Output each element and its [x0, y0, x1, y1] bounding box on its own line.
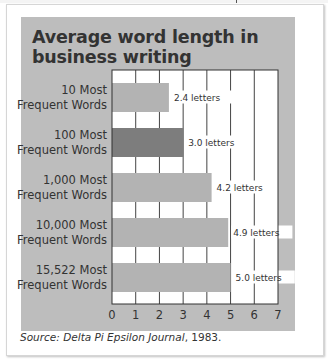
category-label-3-line1: 10,000 Most [36, 218, 108, 232]
category-label-2-line2: Frequent Words [17, 188, 107, 202]
category-label-0-line2: Frequent Words [17, 98, 107, 112]
source-year: , 1983. [185, 331, 222, 343]
category-label-2-line1: 1,000 Most [43, 173, 108, 187]
source-publication: Delta Pi Epsilon Journal [63, 331, 184, 343]
bar-0 [112, 83, 169, 112]
x-tick-label-5: 5 [227, 308, 234, 322]
category-label-1-line2: Frequent Words [17, 143, 107, 157]
bar-1 [112, 128, 183, 157]
bar-2 [112, 173, 212, 202]
value-label-3: 4.9 letters [233, 228, 280, 238]
bar-chart: 2.4 letters10 MostFrequent Words3.0 lett… [0, 0, 328, 359]
category-label-3-line2: Frequent Words [17, 233, 107, 247]
x-tick-label-7: 7 [274, 308, 281, 322]
value-label-1: 3.0 letters [188, 138, 235, 148]
category-label-0-line1: 10 Most [61, 83, 107, 97]
category-label-4-line2: Frequent Words [17, 278, 107, 292]
x-tick-label-3: 3 [179, 308, 186, 322]
x-tick-label-4: 4 [203, 308, 210, 322]
value-label-4: 5.0 letters [236, 273, 283, 283]
bar-4 [112, 263, 231, 292]
source-prefix: Source: [20, 331, 63, 343]
value-label-0: 2.4 letters [174, 93, 221, 103]
source-note: Source: Delta Pi Epsilon Journal, 1983. [20, 331, 221, 343]
bar-3 [112, 218, 228, 247]
x-tick-label-1: 1 [132, 308, 139, 322]
x-tick-label-0: 0 [108, 308, 115, 322]
value-label-2: 4.2 letters [217, 183, 264, 193]
category-label-1-line1: 100 Most [54, 128, 108, 142]
x-tick-label-2: 2 [156, 308, 163, 322]
x-tick-label-6: 6 [251, 308, 258, 322]
category-label-4-line1: 15,522 Most [36, 263, 108, 277]
